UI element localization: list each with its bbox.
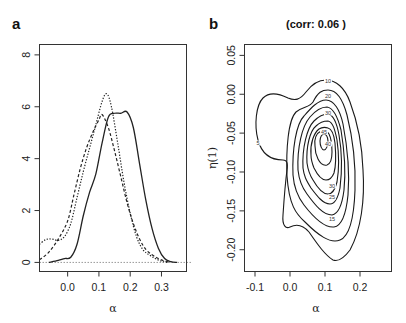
- y-tick-label: -0.10: [225, 160, 237, 184]
- y-tick-label: 8: [20, 52, 32, 58]
- panel-a-density-plot: a 0.00.10.20.3 02468 α: [12, 15, 193, 315]
- x-axis-label: α: [109, 302, 117, 315]
- y-tick-label: 0.05: [225, 45, 237, 66]
- y-axis-ticks: 0.050.00-0.05-0.10-0.15-0.20: [225, 45, 245, 262]
- x-tick-label: 0.0: [283, 281, 298, 293]
- contour-label: 30: [329, 183, 335, 189]
- contour-label: 10: [325, 78, 331, 84]
- x-axis-label: α: [312, 302, 320, 315]
- x-tick-label: -0.1: [246, 281, 264, 293]
- contour-label: 25: [329, 194, 335, 200]
- x-tick-label: 0.1: [318, 281, 333, 293]
- plot-frame: [40, 45, 187, 272]
- y-axis-label: η(1): [206, 147, 219, 169]
- y-tick-label: 6: [20, 104, 32, 110]
- chart-title: (corr: 0.06 ): [286, 18, 346, 30]
- panel-b-letter: b: [209, 15, 218, 32]
- x-tick-label: 0.2: [123, 281, 138, 293]
- contour-label: 40: [325, 141, 331, 147]
- contour-label: 30: [325, 110, 331, 116]
- y-tick-label: 4: [20, 156, 32, 162]
- contour-label: 45: [321, 129, 327, 135]
- y-tick-label: 2: [20, 207, 32, 213]
- contour-label: 20: [325, 93, 331, 99]
- y-tick-label: -0.15: [225, 199, 237, 223]
- density-curves: [40, 94, 178, 263]
- panel-b-contour-plot: b (corr: 0.06 ) 51020304045302515 -0.10.…: [206, 15, 392, 315]
- y-tick-label: -0.05: [225, 121, 237, 145]
- y-tick-label: -0.20: [225, 238, 237, 262]
- x-axis-ticks: -0.10.00.10.2: [246, 272, 367, 293]
- contour-level-40: [315, 131, 332, 166]
- contour-lines: [256, 80, 364, 261]
- panel-a-letter: a: [12, 15, 21, 32]
- contour-label: 5: [256, 140, 259, 146]
- y-tick-label: 0: [20, 259, 32, 265]
- contour-level-20: [298, 107, 345, 215]
- x-tick-label: 0.3: [154, 281, 169, 293]
- y-axis-ticks: 02468: [20, 52, 40, 266]
- contour-label: 15: [329, 216, 335, 222]
- series-solid-curve: [49, 111, 177, 262]
- x-axis-ticks: 0.00.10.20.3: [60, 272, 169, 293]
- y-tick-label: 0.00: [225, 84, 237, 105]
- x-tick-label: 0.1: [92, 281, 107, 293]
- figure: a 0.00.10.20.3 02468 α b (corr: 0.06 ) 5…: [0, 0, 406, 323]
- x-tick-label: 0.0: [60, 281, 75, 293]
- series-dotted-curve: [40, 94, 168, 263]
- x-tick-label: 0.2: [353, 281, 368, 293]
